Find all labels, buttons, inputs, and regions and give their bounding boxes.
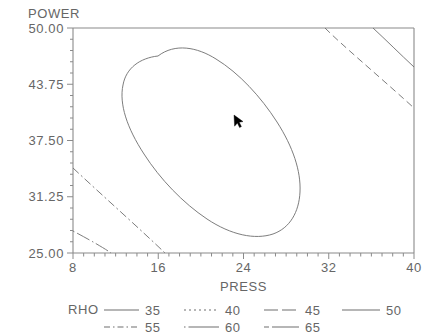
contour-line-45: [325, 28, 414, 108]
legend-item-40[interactable]: 40: [184, 303, 241, 318]
legend-title: RHO: [68, 302, 99, 317]
y-axis-tick-labels: 50.00 43.75 37.50 31.25 25.00: [28, 21, 64, 261]
legend-label-50: 50: [386, 303, 402, 318]
y-tick-label-4: 25.00: [28, 246, 64, 261]
legend-label-55: 55: [145, 320, 161, 335]
contour-line-60: [73, 231, 111, 253]
legend-item-55[interactable]: 55: [104, 320, 161, 335]
y-tick-label-1: 43.75: [28, 77, 64, 92]
x-tick-label-1: 16: [150, 260, 166, 275]
y-axis-title: POWER: [28, 6, 80, 21]
legend: RHO 35 40 45: [68, 302, 402, 335]
legend-item-60[interactable]: 60: [184, 320, 241, 335]
legend-label-60: 60: [225, 320, 241, 335]
contour-lines: [73, 28, 414, 253]
legend-row-1: 35 40 45 50: [104, 303, 402, 318]
legend-row-2: 55 60 65: [104, 320, 321, 335]
x-tick-label-3: 32: [321, 260, 337, 275]
contour-line-50: [373, 28, 414, 67]
legend-label-35: 35: [145, 303, 161, 318]
plot-frame: [73, 28, 414, 253]
legend-item-50[interactable]: 50: [342, 303, 402, 318]
legend-item-45[interactable]: 45: [264, 303, 321, 318]
y-tick-label-0: 50.00: [28, 21, 64, 36]
x-tick-label-0: 8: [69, 260, 77, 275]
legend-label-45: 45: [305, 303, 321, 318]
legend-item-65[interactable]: 65: [264, 320, 321, 335]
x-axis-tick-labels: 8 16 24 32 40: [69, 260, 422, 275]
x-tick-label-4: 40: [406, 260, 422, 275]
y-axis-ticks: [67, 28, 73, 253]
contour-line-35: [122, 48, 300, 237]
contour-line-55: [73, 168, 165, 253]
plot-canvas: 50.00 43.75 37.50 31.25 25.00 POWER 8 16…: [0, 0, 431, 336]
x-axis-ticks: [73, 253, 414, 259]
y-tick-label-3: 31.25: [28, 189, 64, 204]
x-tick-label-2: 24: [236, 260, 252, 275]
legend-label-65: 65: [305, 320, 321, 335]
legend-label-40: 40: [225, 303, 241, 318]
x-axis-title: PRESS: [220, 279, 267, 294]
legend-item-35[interactable]: 35: [104, 303, 161, 318]
mouse-cursor-icon: [234, 115, 243, 128]
contour-plot-figure: 50.00 43.75 37.50 31.25 25.00 POWER 8 16…: [0, 0, 431, 336]
y-tick-label-2: 37.50: [28, 133, 64, 148]
